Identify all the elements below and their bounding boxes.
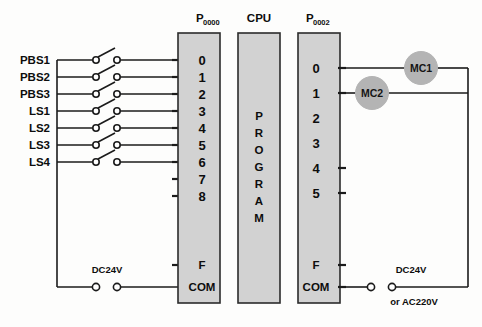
device-label-ls1: LS1 — [29, 105, 51, 117]
header-output-module: P 0002 — [306, 12, 330, 27]
input-terminal-0: 0 — [198, 53, 205, 68]
input-terminal-com: COM — [189, 281, 216, 293]
input-contact-left-2 — [93, 91, 99, 97]
output-terminal-1: 1 — [312, 86, 319, 101]
output-terminal-f: F — [312, 259, 319, 271]
coil-mc1: MC1 — [405, 52, 438, 85]
input-line-5 — [57, 133, 178, 148]
input-wiring-group — [57, 48, 180, 291]
device-label-ls4: LS4 — [29, 156, 51, 168]
input-supply-terminals — [92, 283, 178, 290]
input-terminal-6: 6 — [198, 155, 205, 170]
input-supply-terminal-right — [113, 283, 120, 290]
device-label-pbs1: PBS1 — [20, 54, 51, 66]
cpu-program-letter-m: M — [254, 212, 264, 224]
diagram-canvas: MC1 MC2 PBS1 PBS2 PBS3 LS1 LS2 LS3 LS4 P… — [0, 0, 482, 327]
output-terminal-com: COM — [303, 281, 330, 293]
input-terminal-4: 4 — [198, 121, 206, 136]
input-line-1 — [57, 65, 178, 80]
input-line-2 — [57, 82, 178, 97]
output-terminal-3: 3 — [312, 136, 319, 151]
header-output-subscript: 0002 — [313, 18, 330, 27]
header-input-module: P 0000 — [196, 12, 220, 27]
device-label-ls3: LS3 — [29, 139, 50, 151]
input-supply-label: DC24V — [92, 264, 123, 275]
cpu-program-letter-g: G — [255, 161, 264, 173]
input-terminal-1: 1 — [198, 70, 205, 85]
input-terminal-5: 5 — [198, 138, 205, 153]
input-line-3 — [57, 99, 178, 114]
input-contact-left-1 — [93, 74, 99, 80]
input-terminal-f: F — [198, 259, 205, 271]
cpu-program-letter-r2: R — [255, 178, 264, 190]
input-contact-right-4 — [114, 125, 120, 131]
device-label-pbs3: PBS3 — [20, 88, 50, 100]
output-terminal-4: 4 — [312, 161, 320, 176]
header-input-subscript: 0000 — [203, 18, 220, 27]
cpu-program-letter-r1: R — [255, 127, 264, 139]
input-contact-right-1 — [114, 74, 120, 80]
input-contact-right-2 — [114, 91, 120, 97]
input-line-0 — [57, 48, 178, 63]
device-label-pbs2: PBS2 — [20, 71, 50, 83]
output-terminal-0: 0 — [312, 61, 319, 76]
input-terminal-2: 2 — [198, 87, 205, 102]
output-terminal-5: 5 — [312, 186, 319, 201]
plc-wiring-diagram: MC1 MC2 PBS1 PBS2 PBS3 LS1 LS2 LS3 LS4 P… — [0, 0, 482, 327]
device-label-ls2: LS2 — [29, 122, 50, 134]
input-terminal-3: 3 — [198, 104, 205, 119]
output-supply-terminal-left — [367, 283, 374, 290]
cpu-program-letter-a: A — [255, 195, 263, 207]
output-supply-terminal-right — [388, 283, 395, 290]
coil-mc2: MC2 — [356, 77, 389, 110]
output-supply-alt-label: or AC220V — [390, 296, 438, 307]
cpu-program-letter-o: O — [255, 144, 264, 156]
input-line-6 — [57, 150, 178, 165]
input-contact-left-5 — [93, 142, 99, 148]
output-terminal-2: 2 — [312, 111, 319, 126]
input-contact-right-0 — [114, 57, 120, 63]
coil-mc1-label: MC1 — [410, 62, 432, 74]
input-contact-left-0 — [93, 57, 99, 63]
input-contact-left-3 — [93, 108, 99, 114]
input-terminal-8: 8 — [198, 189, 205, 204]
input-contact-right-6 — [114, 159, 120, 165]
cpu-program-letter-p: P — [255, 110, 263, 122]
input-contact-left-6 — [93, 159, 99, 165]
input-contact-left-4 — [93, 125, 99, 131]
input-contact-right-5 — [114, 142, 120, 148]
input-contact-right-3 — [114, 108, 120, 114]
output-supply-label: DC24V — [396, 264, 427, 275]
input-terminal-7: 7 — [198, 172, 205, 187]
input-line-4 — [57, 116, 178, 131]
coil-mc2-label: MC2 — [361, 87, 383, 99]
header-cpu: CPU — [247, 12, 271, 24]
input-supply-terminal-left — [92, 283, 99, 290]
